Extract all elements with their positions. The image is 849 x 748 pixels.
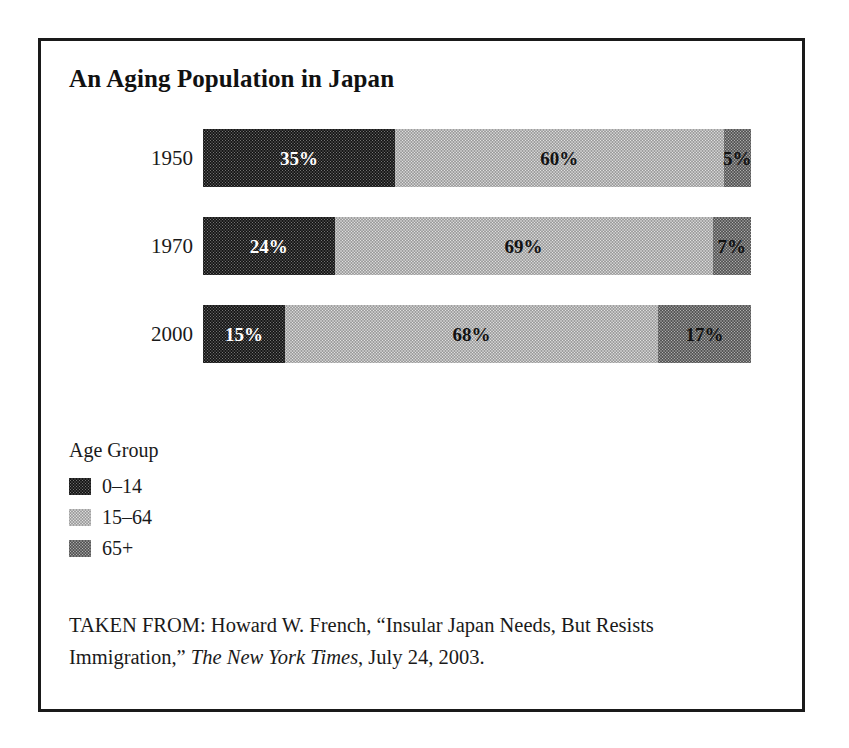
source-citation-publication: The New York Times [191, 646, 358, 668]
legend-item-label: 65+ [102, 537, 133, 560]
figure-box: An Aging Population in Japan 195035%60%5… [38, 38, 805, 712]
bar-segment: 15% [203, 305, 285, 363]
bar-row-category-label: 1970 [41, 217, 193, 275]
legend-item: 15–64 [69, 502, 389, 533]
bar-segment: 17% [658, 305, 751, 363]
bar-segment-value-label: 24% [250, 237, 288, 256]
legend-item-list: 0–1415–6465+ [69, 471, 389, 564]
bar-row-category-label: 1950 [41, 129, 193, 187]
bar-segment: 5% [724, 129, 751, 187]
legend-swatch-icon [69, 540, 91, 557]
source-citation: TAKEN FROM: Howard W. French, “Insular J… [69, 609, 729, 673]
bar-segment-value-label: 7% [718, 237, 747, 256]
bar-segment: 24% [203, 217, 335, 275]
legend-item-label: 15–64 [102, 506, 152, 529]
stacked-bar-track: 15%68%17% [203, 305, 751, 363]
bar-segment-value-label: 15% [225, 325, 263, 344]
bar-segment-value-label: 69% [505, 237, 543, 256]
legend-title: Age Group [69, 439, 389, 462]
bar-segment: 69% [335, 217, 713, 275]
stacked-bar-track: 35%60%5% [203, 129, 751, 187]
bar-segment-value-label: 5% [723, 149, 752, 168]
stacked-bar-track: 24%69%7% [203, 217, 751, 275]
bar-segment-value-label: 17% [685, 325, 723, 344]
bar-row: 197024%69%7% [41, 217, 802, 275]
chart-legend: Age Group 0–1415–6465+ [69, 439, 389, 564]
bar-row: 200015%68%17% [41, 305, 802, 363]
bar-segment-value-label: 68% [453, 325, 491, 344]
bar-segment-value-label: 60% [540, 149, 578, 168]
bar-row: 195035%60%5% [41, 129, 802, 187]
legend-swatch-icon [69, 509, 91, 526]
bar-segment-value-label: 35% [280, 149, 318, 168]
legend-swatch-icon [69, 478, 91, 495]
chart-title: An Aging Population in Japan [69, 65, 394, 93]
source-citation-suffix: , July 24, 2003. [358, 646, 484, 668]
stacked-bar-chart: 195035%60%5%197024%69%7%200015%68%17% [41, 129, 802, 401]
bar-segment: 68% [285, 305, 658, 363]
legend-item: 65+ [69, 533, 389, 564]
legend-item-label: 0–14 [102, 475, 142, 498]
bar-row-category-label: 2000 [41, 305, 193, 363]
bar-segment: 60% [395, 129, 724, 187]
legend-item: 0–14 [69, 471, 389, 502]
bar-segment: 35% [203, 129, 395, 187]
bar-segment: 7% [713, 217, 751, 275]
